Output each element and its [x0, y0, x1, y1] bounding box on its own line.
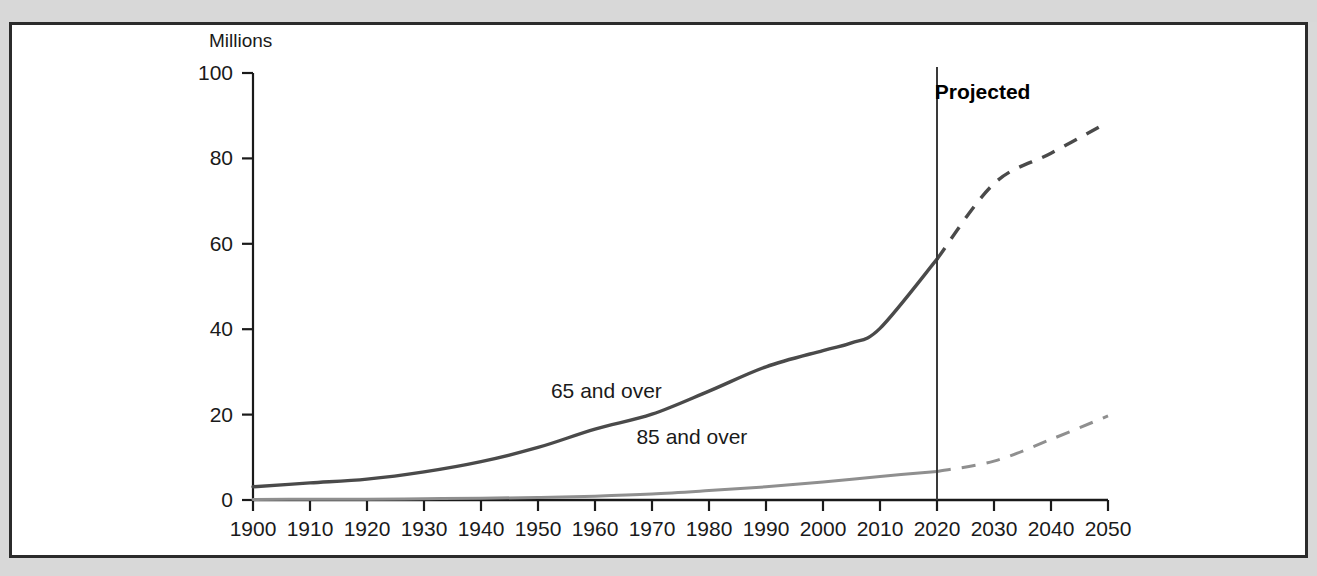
x-tick-label: 2050 [1085, 517, 1132, 540]
projected-annotation: Projected [935, 80, 1031, 103]
figure-panel: 020406080100 190019101920193019401950196… [9, 22, 1308, 558]
x-tick-label: 1980 [686, 517, 733, 540]
y-tick-label: 60 [210, 232, 233, 255]
x-tick-label: 1900 [230, 517, 277, 540]
series-line-projected-65-and-over [937, 122, 1108, 259]
series-inline-label: 65 and over [551, 379, 662, 402]
x-tick-label: 1940 [458, 517, 505, 540]
y-tick-label: 0 [221, 488, 233, 511]
series-line-projected-85-and-over [937, 416, 1108, 472]
series-line-historical-65-and-over [253, 259, 937, 487]
y-tick-group: 020406080100 [198, 61, 253, 511]
x-tick-label: 2000 [800, 517, 847, 540]
x-tick-label: 2020 [914, 517, 961, 540]
x-tick-label: 1990 [743, 517, 790, 540]
y-tick-label: 80 [210, 146, 233, 169]
y-tick-label: 100 [198, 61, 233, 84]
series-inline-label: 85 and over [636, 425, 747, 448]
page-margin-top [0, 0, 1317, 22]
x-tick-label: 2010 [857, 517, 904, 540]
x-tick-label: 2040 [1028, 517, 1075, 540]
x-tick-label: 1960 [572, 517, 619, 540]
page-margin-bottom [0, 560, 1317, 576]
population-projection-line-chart: 020406080100 190019101920193019401950196… [12, 25, 1305, 555]
page-root: 020406080100 190019101920193019401950196… [0, 0, 1317, 576]
x-tick-group: 1900191019201930194019501960197019801990… [230, 500, 1132, 540]
x-tick-label: 1910 [287, 517, 334, 540]
series-line-historical-85-and-over [253, 471, 937, 499]
x-tick-label: 1920 [344, 517, 391, 540]
y-tick-label: 40 [210, 317, 233, 340]
page-margin-left [0, 0, 8, 576]
y-tick-label: 20 [210, 403, 233, 426]
x-tick-label: 2030 [971, 517, 1018, 540]
x-tick-label: 1970 [629, 517, 676, 540]
y-axis-title: Millions [209, 30, 272, 51]
x-tick-label: 1950 [515, 517, 562, 540]
x-tick-label: 1930 [401, 517, 448, 540]
annotation-group: MillionsProjected65 and over85 and over [209, 30, 1030, 448]
